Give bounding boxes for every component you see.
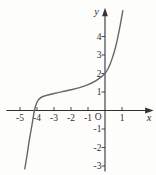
y-tick-label: 4 <box>97 32 102 42</box>
y-tick-label: -2 <box>94 143 102 153</box>
function-curve <box>25 11 123 169</box>
y-tick-label: -1 <box>94 124 102 134</box>
y-tick-label: 3 <box>97 50 102 60</box>
x-tick-label: 1 <box>120 113 125 123</box>
y-axis-arrow-icon <box>102 8 108 17</box>
x-tick-label: -1 <box>84 113 92 123</box>
y-axis-letter: y <box>93 6 99 17</box>
y-tick-label: -3 <box>94 161 102 171</box>
x-axis-letter: x <box>146 112 152 123</box>
x-tick-label: -3 <box>50 113 58 123</box>
x-tick-label: -5 <box>16 113 24 123</box>
x-tick-label: -2 <box>67 113 75 123</box>
y-tick-label: 1 <box>97 87 102 97</box>
function-graph-figure: -5-4-3-2-114321-1-2-3Oyx <box>0 0 156 175</box>
origin-label: O <box>95 112 102 122</box>
function-graph-svg: -5-4-3-2-114321-1-2-3Oyx <box>0 0 156 175</box>
